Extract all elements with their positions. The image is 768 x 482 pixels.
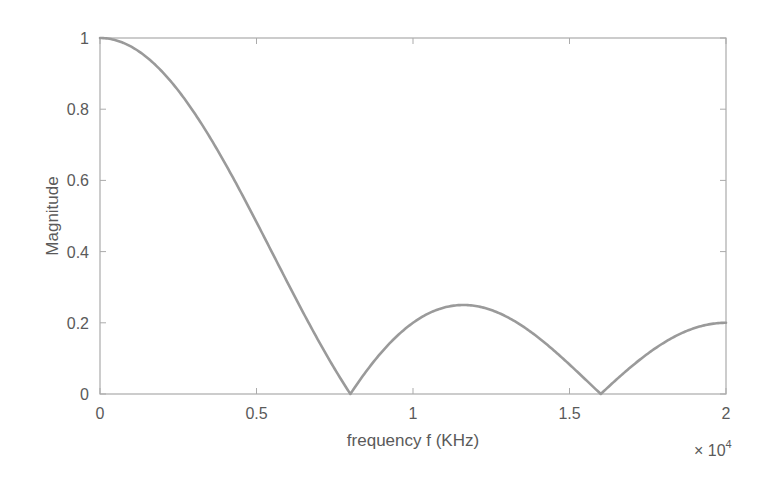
- y-tick-label: 0: [80, 386, 89, 403]
- x-tick-label: 2: [722, 405, 731, 422]
- x-tick-labels: 00.511.52: [96, 405, 731, 422]
- x-exponent-label: × 104: [694, 438, 732, 459]
- x-exponent-power: 4: [726, 438, 732, 450]
- x-exponent-base: × 10: [694, 442, 726, 459]
- y-tick-label: 0.4: [67, 244, 89, 261]
- y-tick-label: 1: [80, 30, 89, 47]
- x-tick-label: 0: [96, 405, 105, 422]
- magnitude-chart: 00.511.52 00.20.40.60.81 frequency f (KH…: [0, 0, 768, 482]
- x-axis-label: frequency f (KHz): [347, 431, 479, 450]
- x-tick-label: 1: [409, 405, 418, 422]
- plot-area: [100, 38, 726, 394]
- y-tick-label: 0.2: [67, 315, 89, 332]
- x-tick-label: 0.5: [245, 405, 267, 422]
- y-axis-label: Magnitude: [43, 176, 62, 255]
- y-tick-label: 0.6: [67, 172, 89, 189]
- y-tick-labels: 00.20.40.60.81: [67, 30, 89, 403]
- x-tick-label: 1.5: [558, 405, 580, 422]
- y-tick-label: 0.8: [67, 101, 89, 118]
